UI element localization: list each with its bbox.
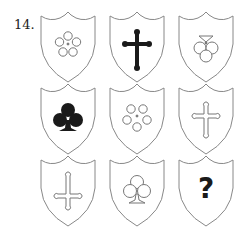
shield-r3c2[interactable] — [107, 154, 167, 228]
shield-icon — [38, 10, 98, 84]
shield-icon — [107, 10, 167, 84]
shield-icon — [107, 154, 167, 228]
shield-r1c2[interactable] — [107, 10, 167, 84]
shield-icon — [176, 10, 236, 84]
shield-r1c1[interactable] — [38, 10, 98, 84]
shield-r3c3-answer[interactable]: ? — [176, 154, 236, 228]
shield-icon — [176, 82, 236, 156]
shield-r2c1[interactable] — [38, 82, 98, 156]
shield-icon — [38, 82, 98, 156]
shield-r2c3[interactable] — [176, 82, 236, 156]
question-number: 14. — [14, 17, 35, 32]
shield-icon — [38, 154, 98, 228]
shield-r1c3[interactable] — [176, 10, 236, 84]
shield-r3c1[interactable] — [38, 154, 98, 228]
shield-icon — [107, 82, 167, 156]
shield-grid: ? — [38, 10, 244, 228]
shield-r2c2[interactable] — [107, 82, 167, 156]
question-mark-label: ? — [176, 172, 236, 205]
